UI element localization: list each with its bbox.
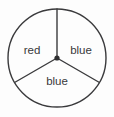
sector-label-left: red — [24, 44, 41, 56]
sector-label-right: blue — [70, 44, 92, 56]
sector-label-bottom: blue — [46, 75, 68, 87]
spinner-figure: red blue blue — [0, 0, 114, 117]
spinner-center-dot — [54, 55, 59, 60]
spinner-diagram: red blue blue — [0, 0, 114, 117]
